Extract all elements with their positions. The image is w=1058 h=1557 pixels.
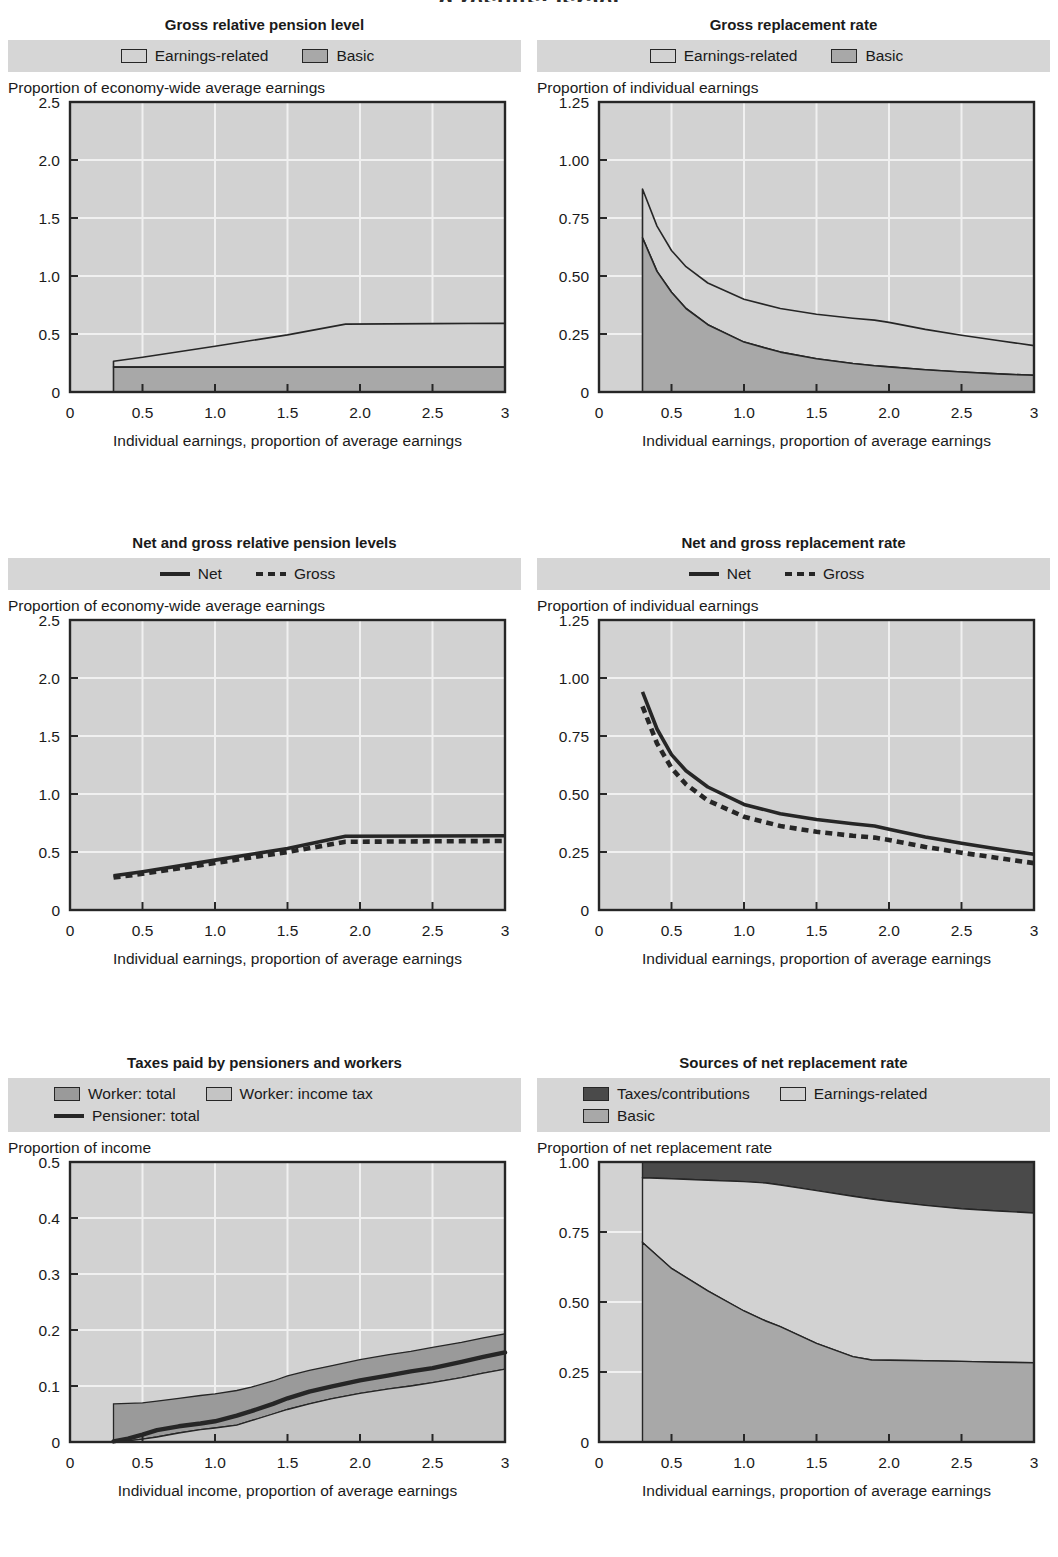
x-tick-label: 0 (66, 404, 75, 421)
legend-item[interactable]: Basic (302, 46, 374, 66)
legend-item[interactable]: Pensioner: total (54, 1106, 200, 1126)
chart-svg: 00.51.01.52.02.500.51.01.52.02.53 (8, 616, 521, 952)
chart-svg: 00.51.01.52.02.500.51.01.52.02.53 (8, 98, 521, 434)
x-tick-label: 2.5 (951, 1454, 973, 1471)
legend-box-swatch (121, 49, 147, 63)
chart-panel-gross-replacement-rate: Gross replacement rateEarnings-relatedBa… (537, 16, 1050, 450)
legend-box-swatch (206, 1087, 232, 1101)
chart-title: Net and gross relative pension levels (8, 534, 521, 552)
y-axis-label: Proportion of net replacement rate (537, 1139, 1050, 1157)
x-tick-label: 0 (66, 922, 75, 939)
chart-panel-net-and-gross-replacement-rate: Net and gross replacement rateNetGrossPr… (537, 534, 1050, 968)
legend-box-swatch (54, 1087, 80, 1101)
y-tick-label: 0.2 (38, 1322, 60, 1339)
legend-item[interactable]: Basic (831, 46, 903, 66)
legend-label: Gross (823, 564, 864, 584)
y-tick-label: 0.5 (38, 844, 60, 861)
legend-item[interactable]: Gross (785, 564, 864, 584)
chart-legend: NetGross (537, 558, 1050, 590)
x-tick-label: 1.5 (277, 922, 299, 939)
x-tick-label: 0.5 (132, 404, 154, 421)
y-axis-label: Proportion of economy-wide average earni… (8, 79, 521, 97)
x-tick-label: 1.5 (806, 404, 828, 421)
legend-dotted-swatch (256, 572, 286, 576)
x-tick-label: 1.0 (204, 922, 226, 939)
y-tick-label: 2.5 (38, 616, 60, 629)
y-axis-label: Proportion of economy-wide average earni… (8, 597, 521, 615)
x-tick-label: 1.0 (733, 1454, 755, 1471)
y-tick-label: 0 (580, 1434, 589, 1451)
chart-panel-sources-of-net-replacement-rate: Sources of net replacement rateTaxes/con… (537, 1054, 1050, 1500)
x-tick-label: 2.0 (349, 404, 371, 421)
x-tick-label: 0 (595, 1454, 604, 1471)
x-tick-label: 2.0 (878, 922, 900, 939)
chart-title: Gross relative pension level (8, 16, 521, 34)
y-axis-label: Proportion of individual earnings (537, 79, 1050, 97)
y-tick-label: 0 (580, 902, 589, 919)
x-tick-label: 2.5 (422, 922, 444, 939)
legend-item[interactable]: Earnings-related (650, 46, 798, 66)
legend-item[interactable]: Worker: total (54, 1084, 176, 1104)
x-axis-label: Individual earnings, proportion of avera… (599, 432, 1034, 450)
x-tick-label: 0 (66, 1454, 75, 1471)
y-tick-label: 0.50 (559, 786, 590, 803)
legend-label: Net (198, 564, 222, 584)
x-tick-label: 0.5 (132, 1454, 154, 1471)
y-tick-label: 0.25 (559, 326, 589, 343)
y-tick-label: 0 (51, 384, 60, 401)
y-tick-label: 1.0 (38, 786, 60, 803)
x-tick-label: 1.0 (733, 922, 755, 939)
chart-grid: Gross relative pension levelEarnings-rel… (0, 0, 1058, 1557)
legend-label: Worker: total (88, 1084, 176, 1104)
legend-item[interactable]: Worker: income tax (206, 1084, 373, 1104)
chart-title: Net and gross replacement rate (537, 534, 1050, 552)
y-axis-label: Proportion of individual earnings (537, 597, 1050, 615)
x-tick-label: 0.5 (661, 922, 683, 939)
legend-box-swatch (583, 1109, 609, 1123)
x-tick-label: 2.5 (951, 404, 973, 421)
chart-title: Gross replacement rate (537, 16, 1050, 34)
legend-item[interactable]: Net (689, 564, 751, 584)
y-tick-label: 0.4 (38, 1210, 60, 1227)
legend-item[interactable]: Gross (256, 564, 335, 584)
x-axis-label: Individual income, proportion of average… (70, 1482, 505, 1500)
legend-label: Basic (865, 46, 903, 66)
legend-item[interactable]: Earnings-related (121, 46, 269, 66)
legend-item[interactable]: Net (160, 564, 222, 584)
chart-title: Taxes paid by pensioners and workers (8, 1054, 521, 1072)
x-tick-label: 1.0 (733, 404, 755, 421)
x-tick-label: 3 (501, 404, 510, 421)
legend-label: Basic (617, 1106, 655, 1126)
x-tick-label: 1.5 (806, 922, 828, 939)
y-tick-label: 0.50 (559, 1294, 590, 1311)
legend-label: Earnings-related (155, 46, 269, 66)
x-tick-label: 2.0 (878, 404, 900, 421)
chart-svg: 00.250.500.751.001.2500.51.01.52.02.53 (537, 98, 1050, 434)
area-basic (114, 367, 506, 392)
y-axis-label: Proportion of income (8, 1139, 521, 1157)
legend-item[interactable]: Basic (583, 1106, 655, 1126)
chart-panel-gross-relative-pension-level: Gross relative pension levelEarnings-rel… (8, 16, 521, 450)
x-tick-label: 3 (501, 922, 510, 939)
chart-legend: NetGross (8, 558, 521, 590)
legend-label: Taxes/contributions (617, 1084, 750, 1104)
chart-legend: Worker: totalWorker: income taxPensioner… (8, 1078, 521, 1132)
y-tick-label: 0 (51, 1434, 60, 1451)
legend-label: Net (727, 564, 751, 584)
x-tick-label: 0.5 (132, 922, 154, 939)
y-tick-label: 1.00 (559, 670, 590, 687)
y-tick-label: 1.25 (559, 616, 589, 629)
y-tick-label: 0.50 (559, 268, 590, 285)
legend-item[interactable]: Taxes/contributions (583, 1084, 750, 1104)
legend-item[interactable]: Earnings-related (780, 1084, 928, 1104)
x-tick-label: 3 (1030, 922, 1039, 939)
legend-box-swatch (302, 49, 328, 63)
y-tick-label: 1.00 (559, 1158, 590, 1171)
y-tick-label: 0.25 (559, 1364, 589, 1381)
x-tick-label: 0 (595, 404, 604, 421)
y-tick-label: 0.5 (38, 326, 60, 343)
legend-label: Gross (294, 564, 335, 584)
legend-box-swatch (780, 1087, 806, 1101)
x-tick-label: 3 (1030, 404, 1039, 421)
legend-label: Worker: income tax (240, 1084, 373, 1104)
